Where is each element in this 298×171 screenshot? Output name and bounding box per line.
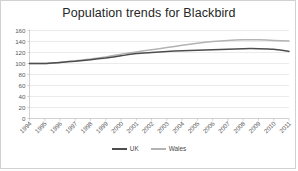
y-tick-label: 100	[15, 60, 26, 67]
x-tick-label: 2009	[247, 119, 262, 134]
legend-label-wales: Wales	[169, 146, 187, 152]
legend-swatch-wales	[151, 148, 166, 150]
legend-label-uk: UK	[130, 146, 139, 152]
x-tick-label: 2003	[155, 119, 170, 134]
x-axis-group: 1994199519961997199819992000200120022003…	[18, 119, 293, 135]
data-series-group	[30, 40, 290, 64]
x-tick-label: 2002	[140, 119, 155, 134]
x-tick-label: 1996	[49, 119, 64, 134]
x-tick-label: 2008	[232, 119, 247, 134]
y-tick-label: 60	[19, 82, 26, 89]
x-tick-label: 2007	[216, 119, 231, 134]
y-axis-group: 020406080100120140160	[15, 27, 29, 122]
y-tick-label: 40	[19, 93, 26, 100]
x-tick-label: 2010	[262, 119, 277, 134]
series-line-uk	[30, 49, 290, 64]
chart-card: Population trends for Blackbird 02040608…	[0, 0, 296, 169]
y-tick-label: 140	[15, 38, 26, 45]
line-chart-plot: 020406080100120140160 199419951996199719…	[1, 1, 297, 170]
chart-legend: UK Wales	[1, 146, 297, 152]
x-tick-label: 2006	[201, 119, 216, 134]
y-tick-label: 160	[15, 27, 26, 34]
x-tick-label: 1999	[94, 119, 109, 134]
legend-swatch-uk	[112, 148, 127, 150]
y-tick-label: 0	[22, 115, 26, 122]
y-tick-label: 20	[19, 104, 26, 111]
x-tick-label: 2004	[171, 119, 186, 134]
legend-entry-uk: UK	[112, 146, 139, 152]
x-tick-label: 2000	[110, 119, 125, 134]
x-tick-label: 1997	[64, 119, 79, 134]
x-tick-label: 1994	[18, 119, 33, 134]
x-tick-label: 1995	[33, 119, 48, 134]
y-tick-label: 120	[15, 49, 26, 56]
y-tick-label: 80	[19, 71, 26, 78]
legend-entry-wales: Wales	[151, 146, 187, 152]
x-tick-label: 2005	[186, 119, 201, 134]
x-tick-label: 1998	[79, 119, 94, 134]
x-tick-label: 2001	[125, 119, 140, 134]
x-tick-label: 2011	[278, 119, 293, 134]
gridlines-group	[30, 31, 290, 119]
